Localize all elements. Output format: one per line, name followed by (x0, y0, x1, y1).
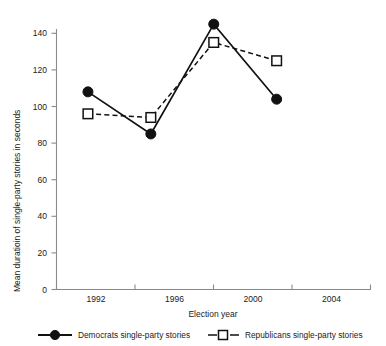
data-point-republicans (209, 38, 219, 48)
data-point-democrats (272, 94, 282, 104)
x-tick-label-2000: 2000 (244, 294, 263, 304)
y-tick-label-0: 0 (42, 285, 47, 295)
x-tick-label-1992: 1992 (87, 294, 106, 304)
y-axis: 0 20 40 60 80 100 120 140 Mean duratioin… (12, 28, 57, 294)
x-axis-title: Election year (188, 309, 237, 319)
data-point-democrats (209, 19, 219, 29)
democrats-line (88, 24, 277, 134)
y-tick-label-100: 100 (33, 102, 47, 112)
data-point-republicans (83, 109, 93, 119)
x-tick-label-1996: 1996 (165, 294, 184, 304)
line-chart-figure: 0 20 40 60 80 100 120 140 Mean duratioin… (0, 0, 386, 346)
y-tick-label-60: 60 (38, 175, 48, 185)
open-square-icon (219, 331, 228, 340)
y-tick-label-120: 120 (33, 65, 47, 75)
y-axis-title: Mean duratioin of single-party stories i… (12, 110, 22, 292)
y-tick-label-80: 80 (38, 138, 48, 148)
x-axis: 1992 1996 2000 2004 Election year (57, 285, 372, 320)
data-point-democrats (83, 87, 93, 97)
data-point-democrats (146, 129, 156, 139)
data-point-republicans (272, 56, 282, 66)
series-democrats (83, 19, 282, 139)
x-tick-label-2004: 2004 (322, 294, 341, 304)
y-tick-label-40: 40 (38, 211, 48, 221)
y-tick-label-140: 140 (33, 28, 47, 38)
data-point-republicans (146, 113, 156, 123)
chart-legend: Democrats single-party stories Republica… (38, 330, 363, 340)
y-tick-label-20: 20 (38, 248, 48, 258)
legend-label-democrats: Democrats single-party stories (78, 330, 190, 340)
legend-item-democrats[interactable]: Democrats single-party stories (38, 330, 190, 340)
legend-label-republicans: Republicans single-party stories (245, 330, 363, 340)
legend-item-republicans[interactable]: Republicans single-party stories (208, 330, 363, 340)
filled-circle-icon (50, 330, 59, 339)
